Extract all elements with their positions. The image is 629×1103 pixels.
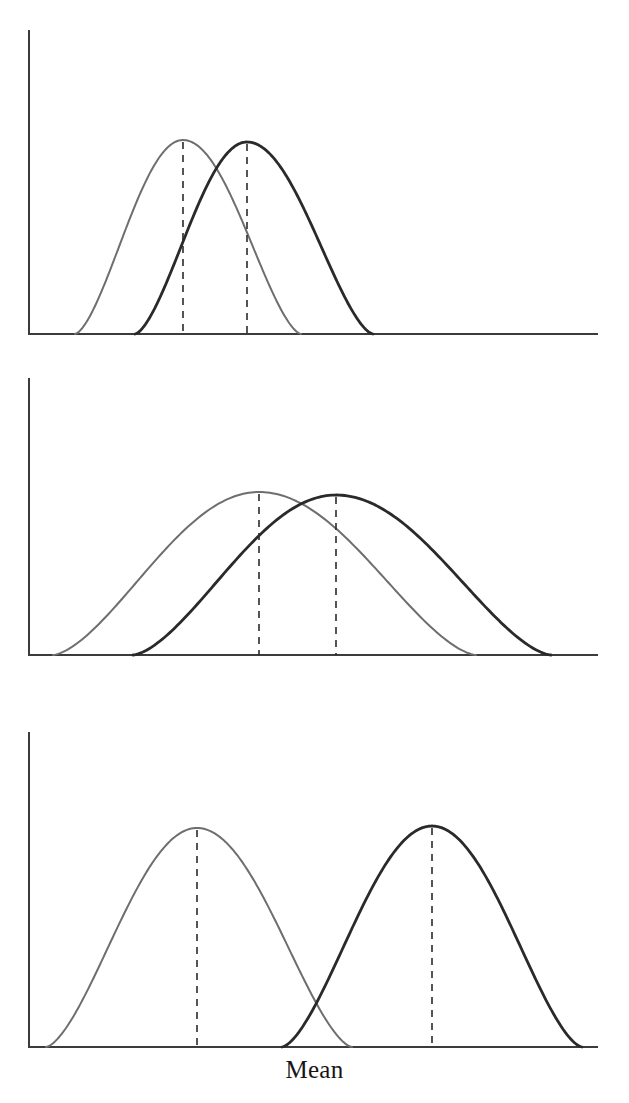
x-axis-caption: Mean [0, 1057, 629, 1082]
curve-group-dark-top [135, 142, 373, 334]
panels-group [29, 31, 597, 1047]
curve-group-light-bottom [46, 828, 352, 1047]
chart-panel-1 [29, 31, 597, 334]
distribution-chart-svg [0, 0, 629, 1103]
distribution-figure: Mean [0, 0, 629, 1103]
panel-2-axes [29, 379, 597, 655]
panel-3-axes [29, 733, 597, 1047]
curve-group-light-middle [53, 492, 476, 655]
chart-panel-3 [29, 733, 597, 1047]
curve-group-light-top [75, 140, 301, 334]
chart-panel-2 [29, 379, 597, 655]
panel-1-axes [29, 31, 597, 334]
